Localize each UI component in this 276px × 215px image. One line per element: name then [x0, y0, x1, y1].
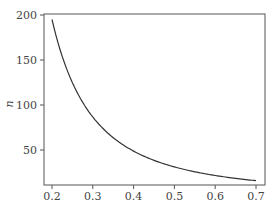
y-axis: 50100150200	[16, 9, 44, 157]
y-tick-label: 150	[16, 54, 37, 67]
line-chart: 50100150200 0.20.30.40.50.60.7 n	[0, 0, 276, 215]
x-tick-label: 0.2	[43, 190, 61, 203]
y-tick-label: 100	[16, 99, 37, 112]
y-tick-label: 200	[16, 9, 37, 22]
x-tick-label: 0.6	[206, 190, 224, 203]
data-line	[52, 20, 256, 181]
x-tick-label: 0.4	[125, 190, 143, 203]
x-tick-label: 0.7	[247, 190, 265, 203]
x-tick-label: 0.5	[166, 190, 184, 203]
x-axis: 0.20.30.40.50.60.7	[43, 185, 265, 203]
y-tick-label: 50	[23, 144, 37, 157]
plot-frame	[44, 14, 265, 185]
y-axis-label: n	[3, 100, 16, 107]
x-tick-label: 0.3	[84, 190, 102, 203]
